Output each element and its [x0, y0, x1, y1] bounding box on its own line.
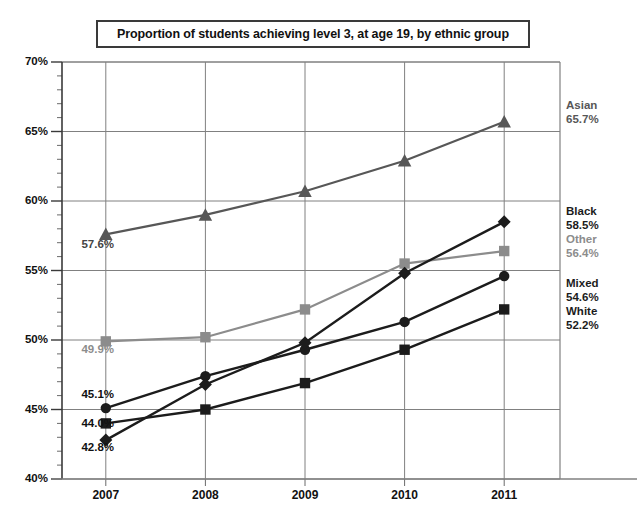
- data-point-marker: [200, 404, 210, 414]
- series-name: White: [566, 305, 599, 319]
- series-end-value: 65.7%: [566, 113, 599, 127]
- data-point-marker: [399, 345, 409, 355]
- series-label-asian: Asian65.7%: [566, 99, 599, 126]
- series-start-value-label: 44.0%: [60, 417, 114, 429]
- series-end-value: 54.6%: [566, 291, 599, 305]
- x-axis-tick-label: 2011: [469, 488, 539, 502]
- series-start-value-label: 57.6%: [60, 238, 114, 250]
- data-point-marker: [199, 378, 212, 391]
- data-point-marker: [498, 215, 511, 228]
- data-point-marker: [300, 304, 310, 314]
- data-point-marker: [399, 317, 409, 327]
- series-end-value: 52.2%: [566, 319, 599, 333]
- data-point-marker: [497, 115, 511, 128]
- series-name: Asian: [566, 99, 599, 113]
- y-axis-tick-label: 50%: [2, 333, 48, 345]
- series-label-mixed: Mixed54.6%: [566, 277, 599, 304]
- series-end-value: 56.4%: [566, 247, 599, 261]
- y-axis-tick-label: 45%: [2, 403, 48, 415]
- y-axis-tick-label: 65%: [2, 125, 48, 137]
- x-axis-tick-label: 2008: [170, 488, 240, 502]
- series-name: Black: [566, 205, 599, 219]
- data-point-marker: [398, 154, 412, 167]
- grid-layer: [62, 62, 560, 479]
- series-label-black: Black58.5%: [566, 205, 599, 232]
- y-axis-tick-label: 70%: [2, 55, 48, 67]
- y-axis-tick-label: 55%: [2, 264, 48, 276]
- y-axis-tick-label: 40%: [2, 472, 48, 484]
- series-name: Mixed: [566, 277, 599, 291]
- data-point-marker: [101, 403, 111, 413]
- data-point-marker: [200, 332, 210, 342]
- x-axis-tick-label: 2010: [370, 488, 440, 502]
- data-point-marker: [300, 378, 310, 388]
- data-point-marker: [499, 304, 509, 314]
- chart-container: Proportion of students achieving level 3…: [0, 0, 637, 531]
- series-name: Other: [566, 233, 599, 247]
- series-label-other: Other56.4%: [566, 233, 599, 260]
- y-axis-tick-label: 60%: [2, 194, 48, 206]
- x-axis-tick-label: 2009: [270, 488, 340, 502]
- series-label-white: White52.2%: [566, 305, 599, 332]
- x-axis-tick-label: 2007: [71, 488, 141, 502]
- data-point-marker: [499, 246, 509, 256]
- series-start-value-label: 45.1%: [60, 388, 114, 400]
- series-start-value-label: 49.9%: [60, 343, 114, 355]
- series-start-value-label: 42.8%: [60, 441, 114, 453]
- data-point-marker: [499, 271, 509, 281]
- series-end-value: 58.5%: [566, 219, 599, 233]
